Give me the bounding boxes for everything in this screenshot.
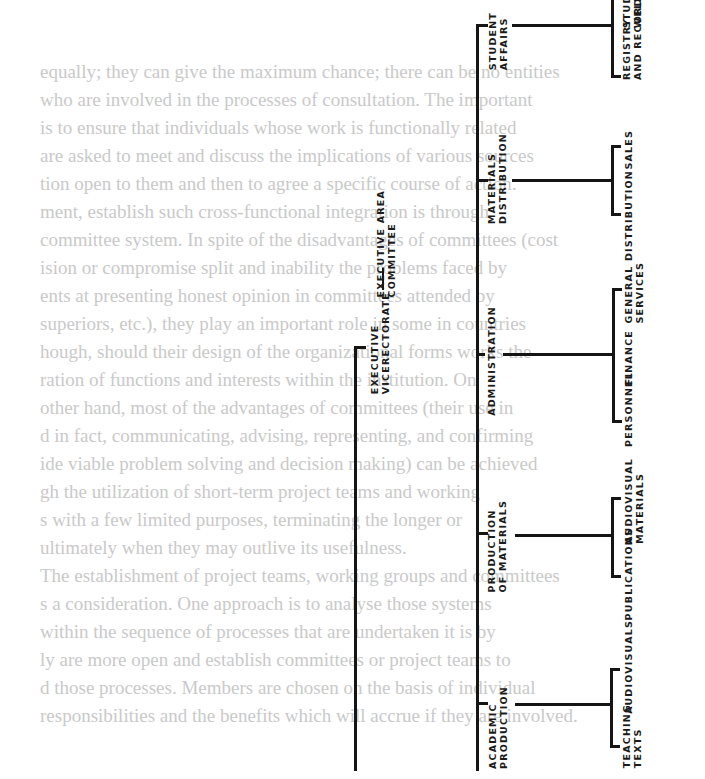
connector-line [354,346,357,771]
connector-line [611,145,621,148]
node-audiovisuals: AUDIOVISUALS [624,620,635,714]
connector-line [515,534,614,537]
connector-line [611,497,621,500]
connector-line [612,420,622,423]
connector-line [611,497,614,577]
node-executive-area-committee: EXECUTIVE AREA COMMITTEE [376,190,397,297]
connector-line [610,745,620,748]
connector-line [354,346,366,349]
node-audiovisual-materials: AUDIOVISUAL MATERIALS [624,458,645,544]
connector-line [515,703,612,706]
connector-line [611,0,614,77]
connector-line [610,668,620,671]
node-student-welfare: STUDENT WELFARE [622,0,643,28]
connector-line [512,24,612,27]
node-finance: FINANCE [624,330,635,385]
node-distribution: DISTRIBUTION [624,170,635,261]
connector-line [476,24,479,771]
connector-line [611,213,621,216]
node-administration: ADMINISTRATION [487,306,498,416]
node-general-services: GENERAL SERVICES [624,262,645,323]
connector-line [611,145,614,215]
connector-line [610,668,613,747]
node-student-affairs: STUDENT AFFAIRS [488,12,509,70]
node-materials-distribution: MATERIALS DISTRIBUTION [487,133,508,224]
connector-line [612,288,622,291]
node-executive-vicerectorate: EXECUTIVE VICERECTORATE [370,292,391,394]
node-academic-production: ACADEMIC PRODUCTION [488,686,509,769]
connector-line [612,288,615,422]
connector-line [503,353,615,356]
connector-line [611,575,621,578]
connector-line [512,179,612,182]
connector-line [611,75,621,78]
org-chart: EXECUTIVE VICERECTORATE EXECUTIVE AREA C… [0,0,705,779]
node-production-of-materials: PRODUCTION OF MATERIALS [487,500,508,592]
node-sales: SALES [624,130,635,170]
connector-line [476,353,485,356]
